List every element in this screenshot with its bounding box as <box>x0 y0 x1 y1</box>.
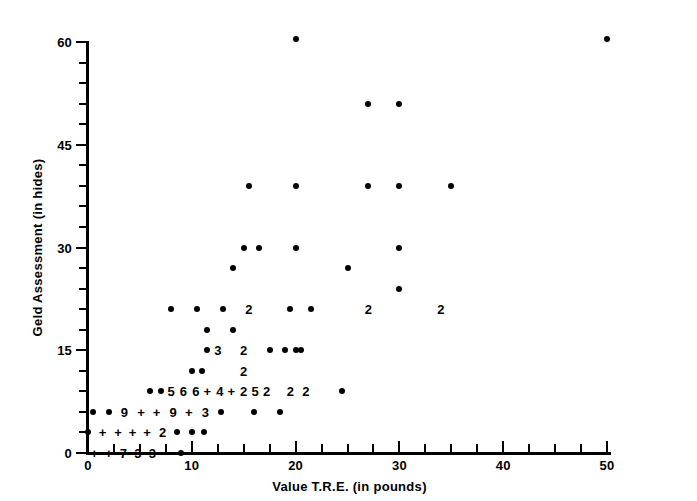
data-point <box>230 327 236 333</box>
data-point <box>396 245 402 251</box>
data-point <box>204 347 210 353</box>
data-point-count-label: 4 <box>216 385 223 398</box>
data-point-count-label: + <box>227 385 235 398</box>
data-point <box>365 183 371 189</box>
data-point <box>218 409 224 415</box>
y-tick-major <box>76 452 87 454</box>
data-point <box>168 306 174 312</box>
data-point <box>345 265 351 271</box>
y-tick-minor <box>79 226 87 228</box>
data-point <box>448 183 454 189</box>
y-tick-minor <box>79 390 87 392</box>
data-point <box>158 388 164 394</box>
data-point <box>230 265 236 271</box>
data-point-count-label: 6 <box>192 385 199 398</box>
y-tick-major <box>76 144 87 146</box>
data-point <box>189 429 195 435</box>
data-point <box>178 450 184 456</box>
data-point-count-label: 3 <box>149 447 156 460</box>
x-tick-label: 50 <box>600 458 615 473</box>
data-point-count-label: - <box>165 447 169 460</box>
data-point-count-label: + <box>105 447 113 460</box>
y-tick-label: 15 <box>57 343 72 358</box>
x-tick-label: 10 <box>184 458 199 473</box>
data-point <box>396 183 402 189</box>
y-tick-minor <box>79 267 87 269</box>
data-point-count-label: + <box>185 405 193 418</box>
y-tick-minor <box>79 103 87 105</box>
data-point <box>267 347 273 353</box>
data-point <box>106 409 112 415</box>
data-point-count-label: 9 <box>121 405 128 418</box>
data-point-count-label: 5 <box>167 385 174 398</box>
data-point <box>201 429 207 435</box>
plot-data-area: 222322566+4+252229++9+3++++2++733- <box>88 42 607 453</box>
data-point-count-label: 3 <box>214 344 221 357</box>
y-tick-label: 60 <box>57 35 72 50</box>
data-point-count-label: + <box>137 405 145 418</box>
data-point <box>298 347 304 353</box>
data-point-count-label: 3 <box>202 405 209 418</box>
data-point <box>199 368 205 374</box>
data-point <box>90 409 96 415</box>
data-point <box>293 347 299 353</box>
data-point <box>339 388 345 394</box>
data-point-count-label: + <box>204 385 212 398</box>
y-tick-major <box>76 41 87 43</box>
data-point-count-label: 3 <box>134 447 141 460</box>
data-point <box>189 368 195 374</box>
y-tick-minor <box>79 164 87 166</box>
data-point-count-label: 2 <box>240 385 247 398</box>
data-point <box>147 388 153 394</box>
data-point-count-label: 2 <box>240 364 247 377</box>
data-point-count-label: 2 <box>263 385 270 398</box>
y-tick-minor <box>79 288 87 290</box>
y-tick-minor <box>79 62 87 64</box>
data-point-count-label: + <box>114 426 122 439</box>
data-point-count-label: 9 <box>169 405 176 418</box>
data-point-count-label: + <box>90 447 98 460</box>
data-point <box>396 101 402 107</box>
data-point <box>287 306 293 312</box>
scatter-plot-figure: 01020304050 015304560 222322566+4+252229… <box>0 0 697 501</box>
data-point-count-label: 2 <box>437 303 444 316</box>
data-point-count-label: 2 <box>245 303 252 316</box>
y-tick-label: 45 <box>57 137 72 152</box>
y-tick-minor <box>79 329 87 331</box>
data-point <box>293 245 299 251</box>
data-point <box>174 429 180 435</box>
data-point-count-label: + <box>143 426 151 439</box>
data-point <box>277 409 283 415</box>
data-point <box>308 306 314 312</box>
data-point <box>365 101 371 107</box>
data-point-count-label: 2 <box>159 426 166 439</box>
data-point-count-label: 2 <box>302 385 309 398</box>
data-point-count-label: 2 <box>365 303 372 316</box>
data-point <box>246 183 252 189</box>
data-point-count-label: 7 <box>120 447 127 460</box>
data-point <box>293 36 299 42</box>
data-point <box>241 245 247 251</box>
data-point-count-label: 6 <box>180 385 187 398</box>
data-point <box>85 429 91 435</box>
data-point-count-label: 2 <box>240 344 247 357</box>
data-point <box>204 327 210 333</box>
data-point <box>220 306 226 312</box>
x-tick-label: 20 <box>288 458 303 473</box>
data-point-count-label: + <box>99 426 107 439</box>
y-axis-title: Geld Assessment (in hides) <box>30 128 45 368</box>
y-tick-minor <box>79 370 87 372</box>
data-point <box>396 286 402 292</box>
x-tick-label: 30 <box>392 458 407 473</box>
y-tick-minor <box>79 123 87 125</box>
y-tick-label: 0 <box>65 446 72 461</box>
data-point-count-label: + <box>153 405 161 418</box>
x-tick-label: 40 <box>496 458 511 473</box>
x-axis-title: Value T.R.E. (in pounds) <box>88 479 611 494</box>
y-tick-minor <box>79 411 87 413</box>
data-point <box>256 245 262 251</box>
y-tick-minor <box>79 185 87 187</box>
data-point <box>293 183 299 189</box>
data-point <box>251 409 257 415</box>
data-point-count-label: + <box>129 426 137 439</box>
